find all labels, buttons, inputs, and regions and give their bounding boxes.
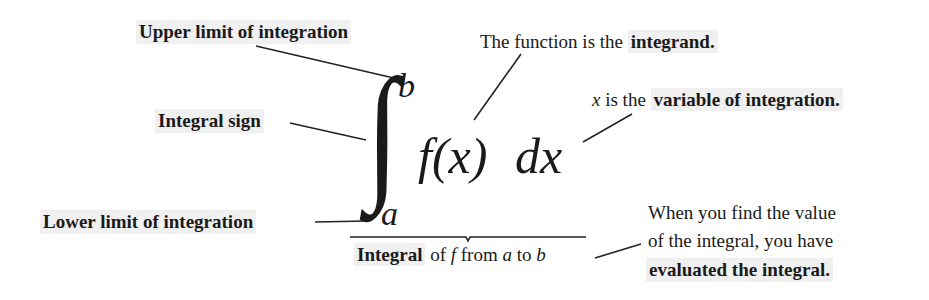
integral-b: b bbox=[536, 244, 546, 265]
integrand-prefix: The function is the bbox=[480, 31, 628, 52]
variable-term: variable of integration. bbox=[651, 88, 843, 111]
integral-from: from bbox=[456, 244, 502, 265]
lower-limit: a bbox=[381, 196, 398, 232]
integral-to: to bbox=[512, 244, 536, 265]
evaluated-term: evaluated the integral. bbox=[646, 258, 833, 282]
variable-label: x is the variable of integration. bbox=[592, 89, 843, 111]
integral-of: of bbox=[425, 244, 450, 265]
evaluated-line2: of the integral, you have bbox=[648, 230, 833, 252]
underbrace bbox=[350, 237, 586, 241]
integrand-leader bbox=[474, 54, 521, 120]
integrand-label: The function is the integrand. bbox=[480, 31, 718, 53]
differential: dx bbox=[515, 128, 562, 184]
integral-sign-leader bbox=[290, 123, 366, 140]
integral-term: Integral bbox=[354, 243, 425, 266]
upper-limit-label: Upper limit of integration bbox=[136, 20, 351, 44]
integral-sign-label: Integral sign bbox=[155, 109, 264, 133]
integrand-term: integrand. bbox=[628, 30, 718, 53]
upper-limit: b bbox=[398, 68, 415, 104]
integral-sign: ∫ bbox=[366, 56, 399, 206]
lower-limit-leader bbox=[315, 221, 367, 222]
variable-leader bbox=[583, 114, 632, 142]
integral-notation-diagram: ∫ b a f(x) dx Upper limit of integration… bbox=[0, 0, 929, 300]
integral-a: a bbox=[502, 244, 512, 265]
evaluated-leader bbox=[595, 244, 641, 258]
variable-mid: is the bbox=[600, 89, 650, 110]
integral-label: Integral of f from a to b bbox=[354, 244, 546, 266]
lower-limit-label: Lower limit of integration bbox=[40, 210, 256, 234]
integrand: f(x) bbox=[418, 128, 487, 184]
evaluated-line1: When you find the value bbox=[648, 202, 836, 224]
